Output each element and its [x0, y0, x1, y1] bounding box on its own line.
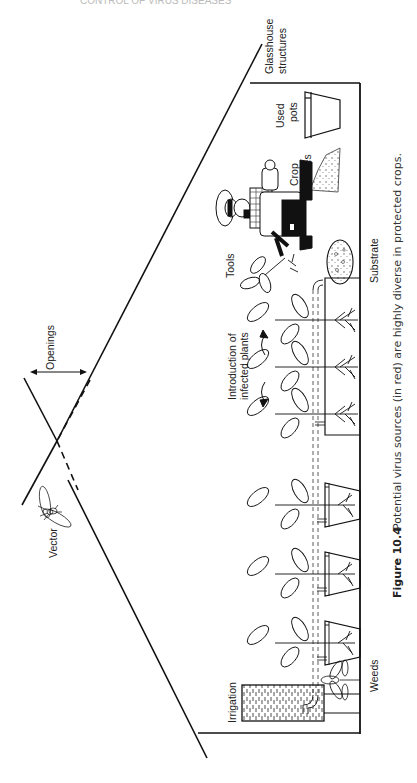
label-openings: Openings [44, 325, 56, 370]
tool-plant-sprig [239, 254, 298, 294]
figure-number: Figure 10.4 [391, 527, 404, 598]
openings-arrow-icon [30, 369, 87, 375]
label-glasshouse-1: Glasshouse [263, 18, 275, 74]
label-weeds: Weeds [368, 660, 380, 693]
label-introduction-1: Introduction of [226, 333, 238, 400]
figure-caption: Potential virus sources (in red) are hig… [391, 153, 404, 530]
bench-plants [244, 292, 358, 441]
irrigation-pipe [313, 290, 318, 695]
glasshouse-diagram: CONTROL OF VIRUS DISEASES Openings Glass… [0, 0, 417, 783]
introduction-arrows-icon [260, 330, 268, 407]
potted-plants [244, 477, 360, 670]
used-pot-icon [305, 92, 340, 138]
label-glasshouse-2: structures [276, 28, 288, 74]
label-irrigation: Irrigation [226, 682, 238, 723]
crop-residues-icon [310, 148, 340, 192]
vector-insect-icon [37, 485, 73, 530]
label-crop-residues-1: Crop [288, 163, 300, 186]
label-introduction-2: infected plants [238, 332, 250, 400]
running-header: CONTROL OF VIRUS DISEASES [80, 0, 232, 6]
roof-openings-dashed [57, 380, 90, 490]
label-tools: Tools [224, 253, 236, 278]
label-used-pots-2: pots [287, 102, 299, 122]
figure-page: CONTROL OF VIRUS DISEASES Openings Glass… [0, 0, 417, 783]
label-used-pots-1: Used [274, 103, 286, 128]
label-substrate: Substrate [368, 238, 380, 283]
glasshouse-structure [22, 44, 360, 758]
label-vector: Vector [47, 528, 59, 558]
bench [325, 278, 360, 435]
